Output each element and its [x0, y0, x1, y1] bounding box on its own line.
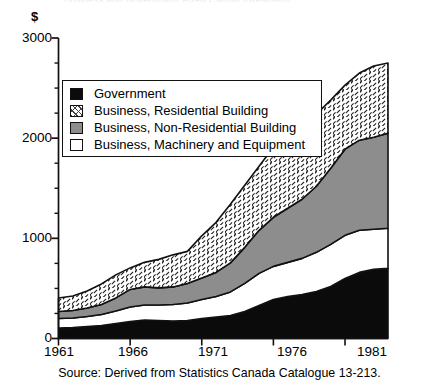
- source-note: Source: Derived from Statistics Canada C…: [0, 366, 439, 380]
- legend-label-government: Government: [94, 87, 166, 100]
- solid-black-swatch-icon: [70, 88, 83, 100]
- white-swatch-icon: [70, 139, 83, 151]
- x-tick-label-1971: 1971: [186, 345, 240, 359]
- legend-label-residential-building: Business, Residential Building: [94, 104, 268, 117]
- legend-label-machinery-and-equipment: Business, Machinery and Equipment: [94, 138, 305, 151]
- legend-item-non-residential-building: Business, Non-Residential Building: [63, 119, 321, 136]
- y-tick-label-3000: 3000: [2, 31, 52, 45]
- legend-item-residential-building: Business, Residential Building: [63, 102, 321, 119]
- gray-swatch-icon: [70, 122, 83, 134]
- legend-item-government: Government: [63, 85, 321, 102]
- legend-label-non-residential-building: Business, Non-Residential Building: [94, 121, 296, 134]
- y-tick-label-1000: 1000: [2, 231, 52, 245]
- hatched-swatch-icon: [70, 105, 83, 117]
- x-tick-label-1961: 1961: [32, 345, 86, 359]
- x-tick-label-1976: 1976: [265, 345, 319, 359]
- stacked-area-chart-figure: Business and Government Fixed Capital In…: [0, 0, 439, 391]
- x-tick-label-1981: 1981: [345, 345, 399, 359]
- y-tick-label-2000: 2000: [2, 131, 52, 145]
- x-tick-label-1966: 1966: [106, 345, 160, 359]
- y-tick-label-0: 0: [2, 331, 52, 345]
- chart-legend: Government Business, Residential Buildin…: [62, 80, 322, 157]
- legend-item-machinery-and-equipment: Business, Machinery and Equipment: [63, 136, 321, 153]
- chart-canvas: [0, 0, 439, 391]
- y-axis-ticks: [52, 38, 59, 339]
